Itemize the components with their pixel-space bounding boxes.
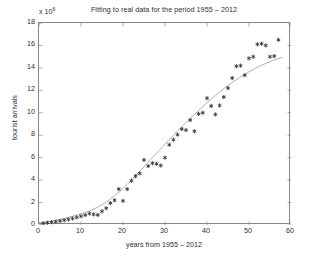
y-axis-ticks <box>39 23 291 225</box>
plot-canvas <box>39 23 291 225</box>
x-axis-label: years from 1955 – 2012 <box>38 240 290 249</box>
x-tick-label: 40 <box>202 227 210 235</box>
data-point <box>168 143 171 146</box>
data-point <box>117 187 120 190</box>
data-point <box>227 86 230 89</box>
data-point <box>71 217 74 220</box>
data-point <box>105 206 108 209</box>
data-point <box>126 187 129 190</box>
data-point <box>176 133 179 136</box>
data-point <box>206 96 209 99</box>
y-axis-multiplier-exponent: 6 <box>53 6 56 12</box>
data-point <box>256 43 259 46</box>
data-point <box>147 164 150 167</box>
data-point <box>269 55 272 58</box>
data-point <box>172 138 175 141</box>
data-point <box>277 38 280 41</box>
y-tick-label: 6 <box>31 153 35 161</box>
data-point <box>109 201 112 204</box>
data-point <box>235 65 238 68</box>
y-tick-label: 4 <box>31 175 35 183</box>
data-point <box>222 95 225 98</box>
data-point <box>185 128 188 131</box>
data-point <box>273 54 276 57</box>
data-point <box>248 57 251 60</box>
y-tick-label: 14 <box>27 63 35 71</box>
y-axis-label: tourist arrivals <box>10 73 19 163</box>
y-axis-multiplier-base: x 10 <box>39 7 53 16</box>
data-point <box>197 112 200 115</box>
x-tick-label: 60 <box>286 227 294 235</box>
x-tick-label: 0 <box>36 227 40 235</box>
data-point <box>75 216 78 219</box>
x-axis-ticks <box>39 23 291 225</box>
plot-area <box>38 22 290 224</box>
fitted-curve <box>39 57 283 223</box>
y-axis-multiplier: x 106 <box>39 7 55 16</box>
data-points <box>42 38 280 225</box>
data-point <box>231 76 234 79</box>
data-point <box>80 215 83 218</box>
data-point <box>67 218 70 221</box>
x-tick-label: 10 <box>76 227 84 235</box>
data-point <box>143 158 146 161</box>
y-axis-tick-labels: 024681012141618 <box>18 22 35 224</box>
data-point <box>193 130 196 133</box>
y-tick-label: 0 <box>31 220 35 228</box>
chart-title: Fitting to real data for the period 1955… <box>38 5 290 14</box>
data-point <box>260 42 263 45</box>
data-point <box>201 111 204 114</box>
data-point <box>264 44 267 47</box>
data-point <box>218 104 221 107</box>
data-point <box>151 162 154 165</box>
data-point <box>113 199 116 202</box>
data-point <box>164 156 167 159</box>
y-tick-label: 16 <box>27 40 35 48</box>
data-point <box>101 210 104 213</box>
y-tick-label: 8 <box>31 130 35 138</box>
x-axis-tick-labels: 0102030405060 <box>38 227 290 237</box>
data-point <box>210 104 213 107</box>
y-tick-label: 12 <box>27 85 35 93</box>
data-point <box>88 212 91 215</box>
data-point <box>122 199 125 202</box>
data-point <box>155 162 158 165</box>
y-tick-label: 2 <box>31 198 35 206</box>
y-tick-label: 10 <box>27 108 35 116</box>
y-tick-label: 18 <box>27 18 35 26</box>
x-tick-label: 30 <box>160 227 168 235</box>
chart-figure: Fitting to real data for the period 1955… <box>0 0 309 264</box>
data-point <box>214 113 217 116</box>
x-tick-label: 50 <box>244 227 252 235</box>
data-point <box>252 55 255 58</box>
data-point <box>84 213 87 216</box>
data-point <box>92 213 95 216</box>
data-point <box>96 213 99 216</box>
x-tick-label: 20 <box>118 227 126 235</box>
data-point <box>239 64 242 67</box>
data-point <box>159 164 162 167</box>
